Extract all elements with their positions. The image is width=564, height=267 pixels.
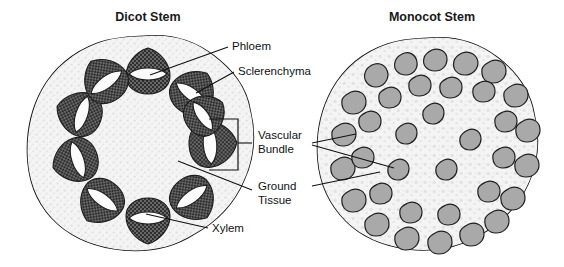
label-vascular-bundle-line1: Vascular [258,129,302,141]
stem-comparison-diagram: Dicot Stem [0,0,564,267]
label-xylem: Xylem [212,222,244,234]
monocot-vascular-bundle [409,75,431,96]
dicot-stem-title: Dicot Stem [115,10,180,24]
monocot-vascular-bundle [440,77,462,98]
label-ground-tissue-line2: Tissue [258,194,291,206]
label-vascular-bundle-line2: Bundle [258,143,294,155]
monocot-stem-title: Monocot Stem [389,10,475,24]
monocot-vascular-bundle [370,183,392,204]
monocot-vascular-bundle [379,87,401,108]
label-sclerenchyma: Sclerenchyma [238,65,311,77]
monocot-vascular-bundle [454,52,478,75]
monocot-vascular-bundle [478,181,500,202]
monocot-vascular-bundle [365,64,388,87]
monocot-vascular-bundle [400,202,422,223]
monocot-vascular-bundle [493,147,515,168]
label-phloem: Phloem [232,40,271,52]
monocot-vascular-bundle [495,111,517,132]
label-ground-tissue-line1: Ground [258,180,296,192]
monocot-vascular-bundle [359,111,381,132]
monocot-vascular-bundle [438,204,460,225]
monocot-vascular-bundle [473,81,495,102]
